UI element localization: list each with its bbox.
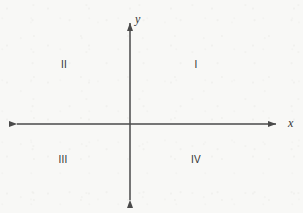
quadrant-label-one: I — [194, 60, 197, 70]
coordinate-plane-figure: y x I II III IV — [0, 0, 303, 213]
axes-graphic — [0, 0, 303, 213]
quadrant-label-three: III — [58, 155, 67, 165]
y-axis-label: y — [135, 13, 140, 25]
quadrant-label-four: IV — [191, 155, 201, 165]
x-axis-label: x — [288, 117, 293, 129]
quadrant-label-two: II — [61, 60, 67, 70]
